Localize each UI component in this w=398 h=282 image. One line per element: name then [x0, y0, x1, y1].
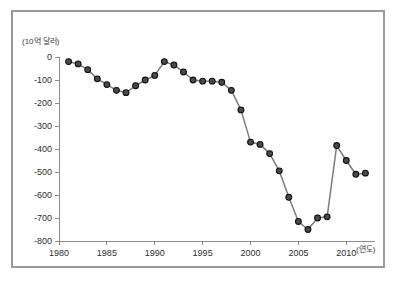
y-axis: 0-100-200-300-400-500-600-700-800 — [34, 52, 59, 246]
data-point — [305, 227, 311, 233]
x-tick-label: 1995 — [193, 248, 213, 258]
x-tick-label: 1990 — [145, 248, 165, 258]
data-point — [171, 62, 177, 68]
data-point — [276, 168, 282, 174]
data-point — [209, 78, 215, 84]
x-tick-label: 1985 — [97, 248, 117, 258]
data-point — [161, 59, 167, 65]
data-point — [219, 79, 225, 85]
x-axis: 1980198519901995200020052010 — [49, 241, 375, 258]
data-point — [343, 158, 349, 164]
chart-root: · · · · · · · · · · 0-100-200-300-400-50… — [0, 0, 398, 282]
data-point — [133, 83, 139, 89]
data-point — [257, 142, 263, 148]
data-point — [295, 219, 301, 225]
data-point — [324, 214, 330, 220]
data-point — [85, 67, 91, 73]
line-chart: 0-100-200-300-400-500-600-700-800 198019… — [0, 0, 398, 282]
data-point — [66, 59, 72, 65]
y-tick-label: -500 — [34, 167, 52, 177]
y-tick-label: -600 — [34, 190, 52, 200]
y-axis-unit-label: (10억 달러) — [22, 36, 60, 46]
data-point — [142, 77, 148, 83]
y-tick-label: -400 — [34, 144, 52, 154]
data-point — [353, 171, 359, 177]
x-tick-label: 1980 — [49, 248, 69, 258]
data-point — [152, 73, 158, 79]
y-tick-label: -100 — [34, 75, 52, 85]
data-point — [267, 151, 273, 157]
x-tick-label: 2000 — [240, 248, 260, 258]
x-tick-label: 2010 — [336, 248, 356, 258]
x-tick-label: 2005 — [288, 248, 308, 258]
data-point — [334, 143, 340, 149]
data-point — [123, 90, 129, 96]
data-point — [181, 69, 187, 75]
data-point — [248, 139, 254, 145]
data-point — [363, 170, 369, 176]
data-point — [238, 107, 244, 113]
data-point — [114, 87, 120, 93]
y-tick-label: -200 — [34, 98, 52, 108]
y-tick-label: 0 — [47, 52, 52, 62]
y-tick-label: -300 — [34, 121, 52, 131]
data-point — [94, 76, 100, 82]
y-tick-label: -800 — [34, 236, 52, 246]
data-point — [104, 82, 110, 88]
data-point — [286, 194, 292, 200]
data-point — [75, 61, 81, 67]
data-point — [190, 77, 196, 83]
y-tick-label: -700 — [34, 213, 52, 223]
data-point — [228, 87, 234, 93]
data-series — [66, 59, 369, 233]
data-point — [315, 215, 321, 221]
data-point — [200, 78, 206, 84]
x-axis-unit-label: (연도) — [356, 245, 376, 254]
